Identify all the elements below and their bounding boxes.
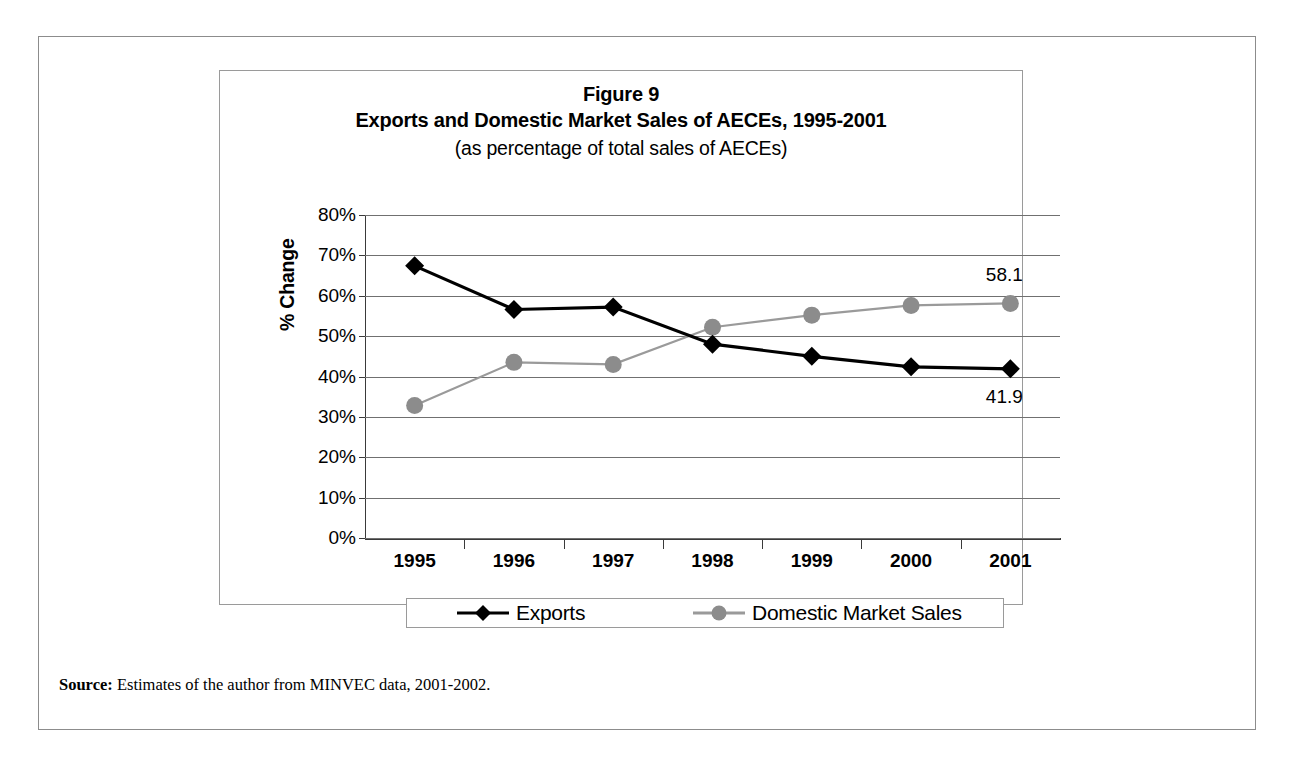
data-point-circle [505, 354, 522, 371]
figure-number: Figure 9 [220, 81, 1022, 107]
data-point-label: 58.1 [986, 264, 1023, 286]
x-tick-label: 2001 [989, 550, 1031, 572]
chart-subtitle: (as percentage of total sales of AECEs) [220, 134, 1022, 162]
data-point-diamond [405, 256, 424, 275]
source-label: Source: [59, 675, 113, 694]
data-point-diamond [1001, 359, 1020, 378]
x-tick-label: 1995 [394, 550, 436, 572]
data-point-diamond [902, 357, 921, 376]
y-tick-label: 70% [318, 244, 356, 266]
data-point-circle [1002, 295, 1019, 312]
x-tick-label: 1996 [493, 550, 535, 572]
y-axis-title: % Change [276, 238, 299, 331]
data-point-diamond [504, 300, 523, 319]
y-tick-label: 80% [318, 204, 356, 226]
source-note: Source: Estimates of the author from MIN… [59, 675, 490, 695]
data-point-diamond [802, 347, 821, 366]
chart-title-block: Figure 9 Exports and Domestic Market Sal… [220, 81, 1022, 162]
source-text: Estimates of the author from MINVEC data… [113, 675, 491, 694]
chart-title: Exports and Domestic Market Sales of AEC… [220, 107, 1022, 134]
legend-item-exports: Exports [455, 601, 585, 625]
y-tick-label: 30% [318, 406, 356, 428]
chart-container: Figure 9 Exports and Domestic Market Sal… [219, 70, 1023, 605]
plot-area: 0%10%20%30%40%50%60%70%80% 1995199619971… [365, 210, 1060, 542]
data-point-diamond [703, 335, 722, 354]
x-tick-label: 1998 [691, 550, 733, 572]
y-tick-label: 20% [318, 446, 356, 468]
data-point-circle [704, 319, 721, 336]
y-tick-label: 60% [318, 285, 356, 307]
y-tick-label: 40% [318, 366, 356, 388]
legend-label-exports: Exports [516, 601, 585, 625]
legend-marker-circle-icon [691, 603, 747, 623]
data-point-circle [803, 307, 820, 324]
data-point-label: 41.9 [986, 386, 1023, 408]
data-point-circle [605, 356, 622, 373]
data-point-circle [903, 297, 920, 314]
x-tick-label: 1999 [791, 550, 833, 572]
y-tick-label: 10% [318, 487, 356, 509]
y-tick-label: 0% [329, 527, 356, 549]
legend-item-domestic-market-sales: Domestic Market Sales [691, 601, 962, 625]
x-tick-label: 2000 [890, 550, 932, 572]
x-tick-label: 1997 [592, 550, 634, 572]
data-point-diamond [604, 298, 623, 317]
series-plot [365, 210, 1060, 542]
chart-legend: Exports Domestic Market Sales [406, 598, 1004, 628]
document-page-frame: Figure 9 Exports and Domestic Market Sal… [38, 36, 1256, 730]
data-point-circle [406, 397, 423, 414]
y-tick-label: 50% [318, 325, 356, 347]
legend-label-domestic-market-sales: Domestic Market Sales [752, 601, 962, 625]
legend-marker-diamond-icon [455, 603, 511, 623]
